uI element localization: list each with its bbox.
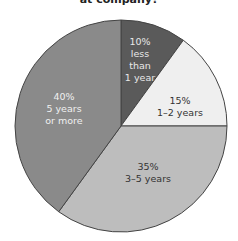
pie-chart: 10%lessthan1 year15%1–2 years35%3–5 year… xyxy=(0,0,238,241)
